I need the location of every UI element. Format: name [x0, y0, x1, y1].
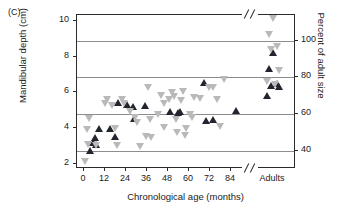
marker-down: [83, 126, 91, 133]
gridline-80: [77, 77, 294, 78]
marker-down: [113, 142, 121, 149]
x-tick-60: [188, 168, 189, 171]
marker-up: [265, 65, 273, 72]
y-tick-label-left-4: 4: [49, 121, 69, 131]
marker-down: [85, 115, 93, 122]
marker-up: [232, 107, 240, 114]
marker-up: [209, 116, 217, 123]
marker-down: [144, 84, 152, 91]
marker-up: [141, 102, 149, 109]
marker-down: [271, 81, 279, 88]
marker-down: [146, 116, 154, 123]
marker-down: [196, 95, 204, 102]
marker-down: [216, 123, 224, 130]
marker-down: [213, 96, 221, 103]
marker-down: [147, 134, 155, 141]
y-tick-label-right-100: 100: [301, 34, 323, 44]
marker-down: [133, 119, 141, 126]
figure-panel-c: (C) Mandibular depth (cm) Percent of adu…: [0, 0, 343, 213]
marker-up: [263, 92, 271, 99]
y-tick-left-4: [73, 127, 76, 128]
marker-down: [269, 15, 277, 22]
marker-down: [177, 97, 185, 104]
x-tick-48: [167, 168, 168, 171]
x-tick-36: [146, 168, 147, 171]
marker-up: [166, 108, 174, 115]
plot-area: [76, 14, 295, 168]
marker-down: [182, 125, 190, 132]
x-tick-12: [104, 168, 105, 171]
marker-down: [108, 102, 116, 109]
y-tick-left-2: [73, 163, 76, 164]
y-tick-left-10: [73, 20, 76, 21]
gridline-40: [77, 151, 294, 152]
y-axis-label-right: Percent of adult size: [316, 0, 327, 116]
y-tick-right-60: [295, 113, 298, 114]
y-tick-label-left-10: 10: [49, 14, 69, 24]
marker-down: [120, 100, 128, 107]
marker-down: [92, 142, 100, 149]
marker-up: [91, 134, 99, 141]
marker-down: [111, 125, 119, 132]
marker-down: [136, 143, 144, 150]
marker-down: [265, 31, 273, 38]
x-axis-label: Chronological age (months): [76, 191, 295, 202]
marker-down: [188, 114, 196, 121]
x-tick-label-84: 84: [217, 173, 243, 183]
y-tick-label-left-8: 8: [49, 50, 69, 60]
marker-down: [181, 132, 189, 139]
marker-down: [267, 46, 275, 53]
x-tick-84: [230, 168, 231, 171]
x-tick-72: [209, 168, 210, 171]
marker-down: [157, 92, 165, 99]
x-category-label-adults: Adults: [250, 173, 294, 183]
marker-down: [160, 124, 168, 131]
marker-down: [84, 141, 92, 148]
marker-down: [275, 67, 283, 74]
x-tick-24: [125, 168, 126, 171]
y-tick-label-left-6: 6: [49, 85, 69, 95]
marker-up: [176, 108, 184, 115]
x-tick-0: [83, 168, 84, 171]
marker-down: [172, 116, 180, 123]
marker-up: [111, 133, 119, 140]
y-tick-label-right-60: 60: [301, 107, 323, 117]
y-tick-left-8: [73, 56, 76, 57]
marker-down: [179, 88, 187, 95]
y-axis-label-left: Mandibular depth (cm): [17, 0, 28, 116]
marker-down: [209, 84, 217, 91]
marker-up: [95, 125, 103, 132]
y-tick-left-6: [73, 91, 76, 92]
marker-down: [154, 111, 162, 118]
y-tick-right-80: [295, 76, 298, 77]
marker-down: [263, 78, 271, 85]
y-tick-label-right-80: 80: [301, 70, 323, 80]
marker-down: [173, 129, 181, 136]
y-tick-label-right-40: 40: [301, 144, 323, 154]
y-tick-label-left-2: 2: [49, 157, 69, 167]
gridline-100: [77, 41, 294, 42]
marker-down: [81, 158, 89, 165]
y-tick-right-40: [295, 150, 298, 151]
y-tick-right-100: [295, 40, 298, 41]
marker-down: [220, 76, 228, 83]
